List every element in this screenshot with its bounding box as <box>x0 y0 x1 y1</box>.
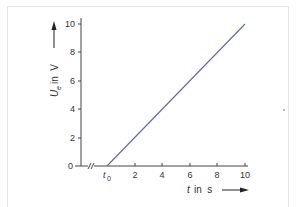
x-tick-label: 2 <box>132 170 137 180</box>
y-axis-arrow-icon <box>52 21 57 48</box>
x-axis-arrow-icon <box>222 188 249 193</box>
y-tick-label: 2 <box>70 133 75 143</box>
y-tick-label: 10 <box>65 19 75 29</box>
t0-subscript: 0 <box>107 175 111 182</box>
x-axis-label-var: t <box>187 184 191 195</box>
x-tick-label: 10 <box>240 170 250 180</box>
x-tick-label: 4 <box>159 170 164 180</box>
x-tick-label: 8 <box>214 170 219 180</box>
x-axis-label-unit: in s <box>194 184 212 195</box>
stray-dot <box>283 109 285 111</box>
data-line-ue <box>107 24 245 166</box>
y-axis-label-sub: e <box>55 86 62 90</box>
y-axis-label-unit: in V <box>49 64 60 84</box>
axis-break-icon <box>88 162 94 170</box>
y-tick-label: 4 <box>70 104 75 114</box>
chart-svg: 10 8 6 4 2 0 2 4 6 8 10 t 0 t in s U e i… <box>0 0 297 207</box>
y-tick-label: 0 <box>68 161 73 171</box>
y-tick-label: 6 <box>70 76 75 86</box>
y-tick-label: 8 <box>70 47 75 57</box>
t0-label: t <box>103 170 106 180</box>
x-tick-label: 6 <box>187 170 192 180</box>
y-axis-label: U e in V <box>49 64 62 97</box>
